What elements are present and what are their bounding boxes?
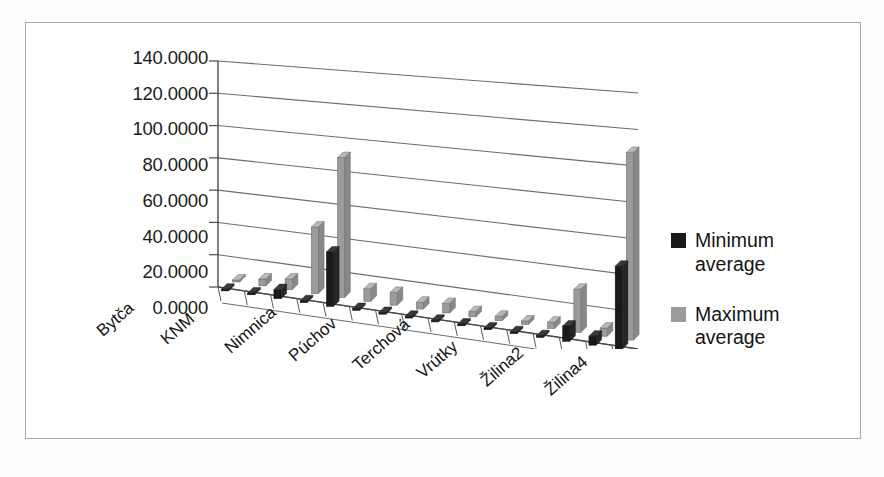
x-axis-tick (244, 291, 247, 305)
y-axis-tick-label: 40.0000 (78, 226, 208, 248)
plot-area (206, 59, 656, 339)
x-axis-category-label: Terchová (349, 314, 414, 374)
x-axis-category-label: Púchov (285, 314, 341, 366)
legend-label-maximum: Maximum average (695, 303, 845, 351)
y-axis-tick-label: 100.0000 (78, 118, 208, 140)
x-axis-category-label: Žilina2 (477, 344, 528, 392)
legend-item-maximum: Maximum average (671, 303, 871, 351)
x-axis-tick (218, 287, 221, 301)
bar-chart-3d (206, 59, 656, 349)
y-axis-labels: 0.000020.000040.000060.000080.0000100.00… (78, 59, 208, 319)
legend-item-minimum: Minimum average (671, 229, 871, 277)
y-axis-tick-label: 60.0000 (78, 190, 208, 212)
bar-maximum (469, 312, 476, 317)
y-axis-tick-label: 140.0000 (78, 47, 208, 69)
y-axis-tick-label: 120.0000 (78, 83, 208, 105)
bar-minimum (274, 290, 281, 299)
legend-swatch-minimum-icon (671, 233, 686, 248)
y-axis-tick-label: 80.0000 (78, 154, 208, 176)
chart-frame: 0.000020.000040.000060.000080.0000100.00… (25, 22, 861, 439)
legend-label-minimum: Minimum average (695, 229, 845, 277)
x-axis-category-label: Žilina4 (541, 352, 592, 400)
bar-maximum (416, 302, 423, 309)
x-axis-labels: BytčaKNMNimnicaPúchovTerchováVrútkyŽilin… (81, 318, 671, 433)
bar-minimum (248, 293, 255, 295)
y-axis-tick-label: 20.0000 (78, 261, 208, 283)
bar-minimum (353, 309, 360, 311)
bar-minimum (300, 301, 307, 303)
x-axis-category-label: Vrútky (413, 337, 462, 383)
bar-minimum (379, 312, 386, 314)
bar-maximum (233, 280, 240, 282)
x-axis-tick (297, 299, 300, 313)
bar-minimum (221, 289, 228, 291)
chart-screenshot: 0.000020.000040.000060.000080.0000100.00… (0, 0, 884, 477)
bar-maximum (259, 279, 266, 286)
legend-swatch-maximum-icon (671, 307, 686, 322)
bar-maximum (311, 227, 318, 293)
bar-maximum (390, 292, 397, 305)
bar-maximum (364, 289, 371, 302)
bar-minimum (326, 252, 333, 306)
chart-legend: Minimum average Maximum average (671, 229, 871, 376)
bar-maximum (443, 303, 450, 313)
